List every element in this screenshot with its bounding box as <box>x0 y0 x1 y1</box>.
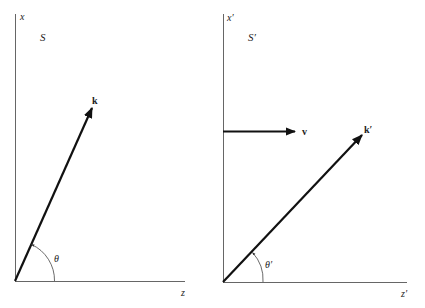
z-axis-label: z <box>180 287 185 298</box>
k-prime-vector-label: k′ <box>364 124 373 135</box>
theta-prime-angle-arc <box>253 253 264 283</box>
x-axis-label: x <box>19 11 25 22</box>
theta-prime-label: θ′ <box>265 259 273 270</box>
theta-label: θ <box>54 253 59 264</box>
frame-s: x S k θ z <box>15 11 185 298</box>
theta-angle-arc <box>32 245 55 282</box>
x-prime-axis-label: x′ <box>226 12 234 23</box>
frame-s-label: S <box>40 31 46 43</box>
z-prime-axis-label: z′ <box>400 288 408 299</box>
k-prime-vector-arrow <box>223 135 362 282</box>
k-vector-label: k <box>92 95 98 106</box>
frame-s-prime: x′ S′ v k′ θ′ z′ <box>223 12 408 299</box>
velocity-label: v <box>302 126 307 137</box>
frame-s-prime-label: S′ <box>248 31 257 43</box>
frames-diagram: x S k θ z x′ S′ v k′ θ′ z′ <box>0 0 425 308</box>
